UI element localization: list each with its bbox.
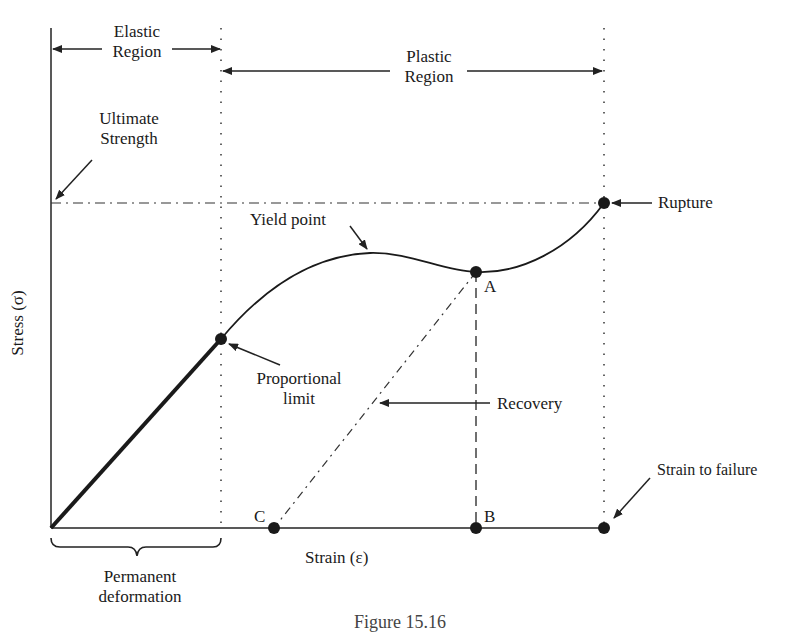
rupture-point	[598, 197, 610, 209]
yield-point-label: Yield point	[250, 210, 326, 230]
elastic-region-label: Elastic Region	[100, 22, 174, 62]
yield-point-arrow	[350, 226, 367, 249]
proportional-limit-point	[215, 333, 227, 345]
recovery-label: Recovery	[497, 394, 562, 414]
plastic-region-label: Plastic Region	[392, 47, 466, 87]
rupture-label: Rupture	[658, 193, 713, 213]
point-b	[470, 522, 482, 534]
strain-to-failure-arrow	[614, 478, 650, 518]
y-axis-label: Stress (σ)	[8, 283, 28, 363]
ultimate-strength-label: Ultimate Strength	[84, 109, 174, 149]
strain-to-failure-point	[598, 522, 610, 534]
proportional-limit-label: Proportional limit	[244, 369, 354, 409]
permanent-deformation-label: Permanent deformation	[80, 567, 200, 607]
point-b-label: B	[484, 507, 495, 527]
strain-to-failure-label: Strain to failure	[657, 460, 757, 480]
ultimate-strength-arrow	[56, 160, 92, 199]
elastic-segment	[51, 339, 221, 528]
point-c-label: C	[254, 507, 265, 527]
point-c	[268, 522, 280, 534]
permanent-deformation-brace	[51, 538, 221, 556]
figure-caption: Figure 15.16	[320, 612, 480, 632]
x-axis-label: Strain (ε)	[305, 548, 368, 568]
proportional-limit-arrow	[229, 344, 280, 365]
point-a-label: A	[484, 277, 496, 297]
point-a	[470, 266, 482, 278]
